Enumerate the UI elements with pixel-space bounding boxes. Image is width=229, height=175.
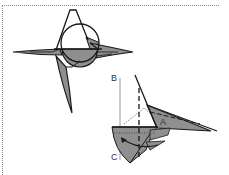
diagram-canvas: B A C [0,0,229,175]
label-b: B [111,74,117,83]
label-a: A [160,118,166,127]
figure-2-fold-step [0,0,229,175]
label-c: C [111,153,118,162]
